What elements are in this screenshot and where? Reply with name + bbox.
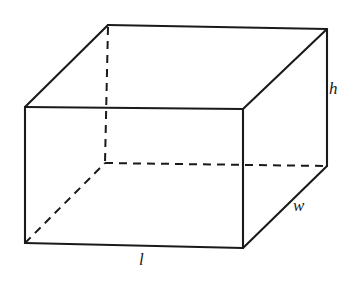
edge-top-left-diagonal xyxy=(25,25,108,107)
edge-back-top xyxy=(108,25,327,29)
front-face-fill xyxy=(25,107,243,248)
edge-top-right-diagonal xyxy=(243,29,327,109)
length-label: l xyxy=(139,251,144,268)
box-drawing xyxy=(0,0,355,282)
width-label: w xyxy=(293,197,304,214)
edge-bottom-right-diagonal xyxy=(243,166,327,248)
rectangular-prism-figure: l w h xyxy=(0,0,355,282)
height-label: h xyxy=(329,80,338,97)
